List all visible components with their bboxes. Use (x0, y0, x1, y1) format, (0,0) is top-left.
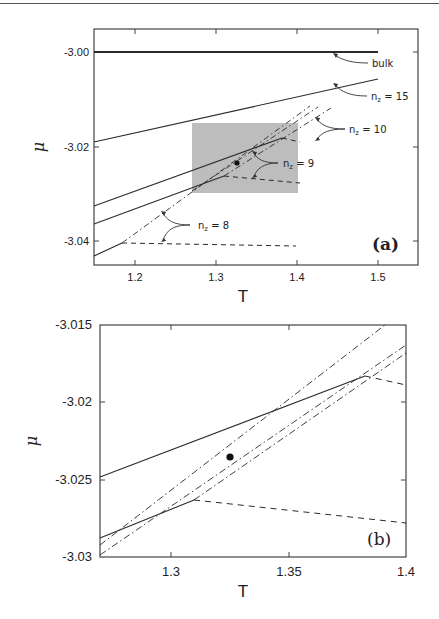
series-dashdot-a (100, 325, 385, 545)
figure: -3.00 -3.02 -3.04 1.2 1.3 1.4 1.5 T μ (0, 0, 439, 619)
panel-b-ylabel: μ (22, 436, 41, 446)
series-nz9-solid (94, 176, 224, 224)
panel-a-xtick: 1.4 (289, 271, 304, 283)
critical-point-marker (234, 160, 239, 165)
panel-a-ytick: -3.02 (64, 141, 89, 153)
panel-b-xlabel: T (238, 582, 248, 601)
panel-a-xlabel: T (238, 287, 248, 306)
critical-point-marker (226, 453, 233, 460)
panel-a-xtick: 1.3 (208, 271, 223, 283)
panel-b-ytick: -3.03 (62, 549, 92, 564)
series-nz8-dashed (122, 243, 296, 246)
panel-b-xtick: 1.3 (162, 564, 180, 579)
label-bulk: bulk (372, 58, 393, 69)
panel-a-ytick: -3.00 (64, 46, 89, 58)
label-nz8-val: = 8 (208, 220, 229, 231)
panel-b-ytick: -3.025 (55, 472, 92, 487)
panel-a-ytick: -3.04 (64, 235, 89, 247)
panel-a-tag: (a) (372, 234, 399, 254)
panel-a-xtick: 1.5 (370, 271, 385, 283)
panel-b-ytick: -3.02 (62, 394, 92, 409)
label-nz8: nz = 8 (198, 220, 229, 233)
series-nz8-solid (94, 243, 122, 256)
label-nz9-val: = 9 (293, 158, 314, 169)
panel-b-xtick: 1.35 (276, 564, 301, 579)
series-upper-solid (100, 376, 365, 477)
label-nz15-val: = 15 (381, 91, 408, 102)
panel-a: -3.00 -3.02 -3.04 1.2 1.3 1.4 1.5 T μ (29, 29, 418, 306)
panel-b: -3.015 -3.02 -3.025 -3.03 1.3 1.35 1.4 T… (22, 317, 415, 601)
series-dashdot-b (100, 345, 406, 555)
panel-b-frame (100, 325, 406, 557)
series-lower-solid (100, 500, 194, 538)
label-nz10: nz = 10 (349, 124, 387, 137)
panel-b-xtick: 1.4 (397, 564, 415, 579)
series-dashdot-c (194, 353, 406, 500)
panel-b-ytick: -3.015 (55, 317, 92, 332)
panel-a-ylabel: μ (29, 142, 48, 152)
series-lower-dashed (194, 500, 406, 523)
panel-b-tag: (b) (367, 529, 391, 549)
label-nz15: nz = 15 (371, 91, 409, 104)
label-nz10-val: = 10 (359, 124, 386, 135)
panel-b-ticks (100, 325, 406, 557)
series-upper-dashed (365, 376, 406, 385)
panel-a-xtick: 1.2 (127, 271, 142, 283)
panel-b-series (100, 325, 406, 555)
